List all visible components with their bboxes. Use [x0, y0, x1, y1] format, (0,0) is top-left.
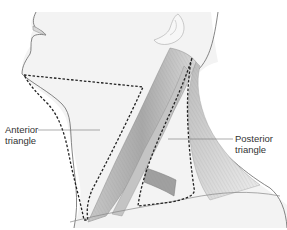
anterior-triangle-label: Anterior triangle: [5, 124, 38, 146]
posterior-label-line2: triangle: [235, 144, 273, 155]
anterior-label-line1: Anterior: [5, 124, 38, 135]
neck-triangles-diagram: [0, 0, 287, 230]
anterior-label-line2: triangle: [5, 135, 38, 146]
posterior-triangle-label: Posterior triangle: [235, 133, 273, 155]
posterior-label-line1: Posterior: [235, 133, 273, 144]
